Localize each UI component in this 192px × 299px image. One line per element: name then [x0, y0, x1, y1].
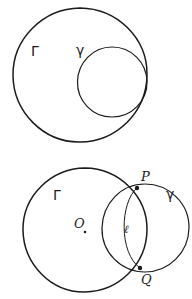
bottom-small-circle-label: γ — [166, 186, 174, 202]
bottom-center-label: O — [74, 216, 85, 231]
bottom-point-p-label: P — [140, 169, 150, 184]
bottom-center-marker — [84, 231, 87, 234]
bottom-point-q-label: Q — [141, 272, 152, 287]
canvas-background — [0, 0, 192, 299]
diagram-canvas: Γ γ Γ γ O P Q — [0, 0, 192, 299]
geometry-diagram-root: Γ γ Γ γ O P Q — [0, 0, 192, 299]
bottom-point-p-marker — [135, 186, 139, 190]
top-small-circle-label: γ — [76, 42, 84, 58]
bottom-point-q-marker — [138, 266, 142, 270]
bottom-big-circle-label: Γ — [53, 187, 61, 203]
bottom-arc-label: ℓ — [124, 223, 129, 236]
top-big-circle-label: Γ — [31, 43, 39, 59]
